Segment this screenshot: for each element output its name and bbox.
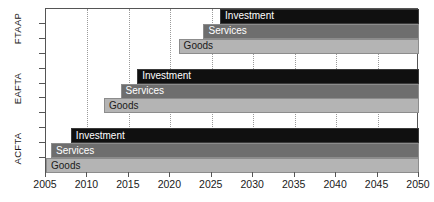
x-axis-tick xyxy=(294,172,295,177)
x-axis-tick xyxy=(128,172,129,177)
bar-label: Investment xyxy=(138,71,191,81)
plot-area: InvestmentServicesGoodsInvestmentService… xyxy=(45,8,418,172)
bar-label: Goods xyxy=(180,41,213,51)
bar-label: Services xyxy=(52,146,94,156)
x-axis-tick xyxy=(252,172,253,177)
x-axis-tick xyxy=(169,172,170,177)
bar-eafta-investment: Investment xyxy=(137,69,419,84)
x-axis-tick xyxy=(45,172,46,177)
y-axis-tick xyxy=(39,53,45,54)
x-axis-tick xyxy=(335,172,336,177)
bar-ftaap-services: Services xyxy=(203,24,419,39)
y-axis-tick xyxy=(39,112,45,113)
x-axis-label-2015: 2015 xyxy=(106,178,150,190)
bar-eafta-goods: Goods xyxy=(104,98,419,113)
x-axis-label-2030: 2030 xyxy=(230,178,274,190)
bar-label: Investment xyxy=(72,131,125,141)
bar-label: Services xyxy=(122,86,164,96)
x-axis-label-2035: 2035 xyxy=(272,178,316,190)
x-axis-label-2045: 2045 xyxy=(355,178,399,190)
y-axis-tick xyxy=(39,157,45,158)
y-axis-tick xyxy=(39,68,45,69)
bar-label: Services xyxy=(204,26,246,36)
y-axis-tick xyxy=(39,97,45,98)
x-axis-label-2005: 2005 xyxy=(23,178,67,190)
bar-label: Investment xyxy=(221,11,274,21)
bar-label: Goods xyxy=(105,101,138,111)
x-axis-tick xyxy=(86,172,87,177)
y-axis-tick xyxy=(39,83,45,84)
y-axis-tick xyxy=(39,142,45,143)
x-axis-label-2010: 2010 xyxy=(64,178,108,190)
y-axis-tick xyxy=(39,38,45,39)
x-axis-tick xyxy=(418,172,419,177)
x-axis-label-2050: 2050 xyxy=(396,178,434,190)
bar-acfta-services: Services xyxy=(51,143,419,158)
y-axis-tick xyxy=(39,23,45,24)
bar-eafta-services: Services xyxy=(121,84,419,99)
x-axis-tick xyxy=(377,172,378,177)
bar-label: Goods xyxy=(47,161,80,171)
bar-acfta-goods: Goods xyxy=(46,158,419,173)
bar-ftaap-goods: Goods xyxy=(179,39,419,54)
x-axis-label-2025: 2025 xyxy=(189,178,233,190)
x-axis-label-2020: 2020 xyxy=(147,178,191,190)
bar-ftaap-investment: Investment xyxy=(220,9,419,24)
x-axis-tick xyxy=(211,172,212,177)
y-axis-tick xyxy=(39,127,45,128)
y-axis-label-ftaap: FTAAP xyxy=(12,12,23,46)
y-axis-label-eafta: EAFTA xyxy=(12,72,23,106)
x-axis-label-2040: 2040 xyxy=(313,178,357,190)
bar-acfta-investment: Investment xyxy=(71,128,419,143)
y-axis-label-acfta: ACFTA xyxy=(12,131,23,165)
